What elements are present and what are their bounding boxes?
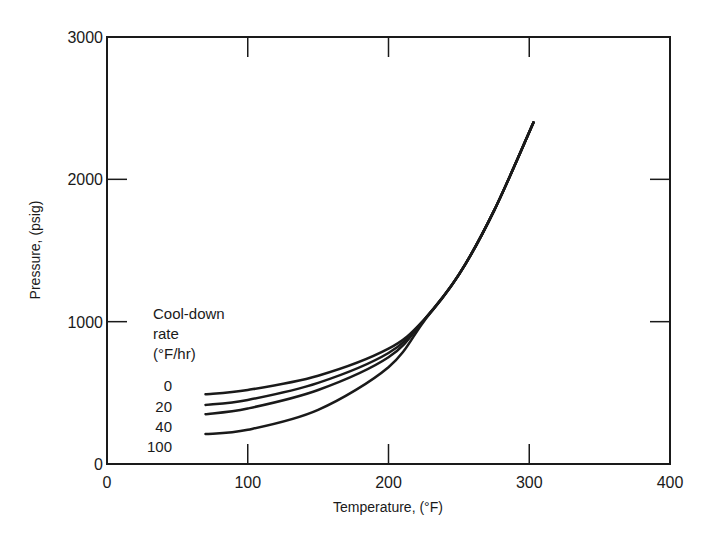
x-tick-label: 400 (657, 474, 684, 491)
legend-entry: 40 (155, 418, 172, 435)
x-tick-label: 300 (516, 474, 543, 491)
y-tick-label: 2000 (67, 171, 103, 188)
legend-entry: 20 (155, 398, 172, 415)
data-curves (206, 122, 534, 434)
y-axis-title: Pressure, (psig) (27, 201, 43, 300)
legend-entry: 0 (164, 377, 172, 394)
y-tick-label: 0 (94, 456, 103, 473)
x-tick-label: 0 (103, 474, 112, 491)
y-tick-label: 3000 (67, 29, 103, 46)
legend-entry: 100 (147, 438, 172, 455)
curve-rate-20 (206, 122, 534, 405)
curve-rate-100 (206, 122, 534, 434)
x-axis-title: Temperature, (°F) (333, 499, 443, 515)
x-tick-label: 200 (375, 474, 402, 491)
x-tick-label: 100 (234, 474, 261, 491)
legend-title: Cool-down (153, 305, 225, 322)
legend-title: (°F/hr) (153, 345, 196, 362)
curve-rate-40 (206, 122, 534, 414)
plot-frame (107, 37, 670, 464)
y-tick-label: 1000 (67, 314, 103, 331)
legend-title: rate (153, 325, 179, 342)
chart: 01002003004000100020003000 Pressure, (ps… (0, 0, 705, 536)
curve-rate-0 (206, 122, 534, 394)
